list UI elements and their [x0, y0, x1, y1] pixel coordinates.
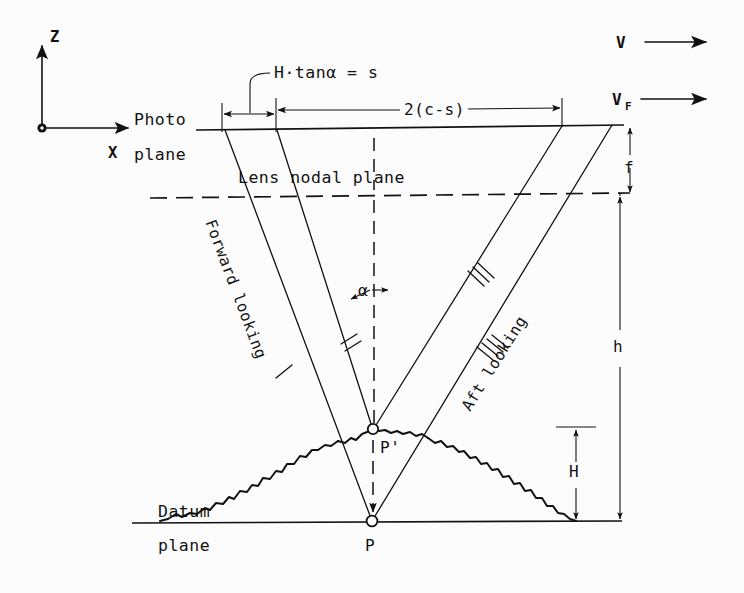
- point-P-group: P: [365, 516, 377, 555]
- optical-center-axis: [373, 138, 374, 512]
- alpha-angle-label: α: [358, 281, 368, 300]
- velocity-vector-V: V: [616, 33, 706, 52]
- coordinate-axes: [37, 46, 128, 133]
- terrain-right-slope: [428, 438, 576, 521]
- top-dimension-chain: 2(c-s) H·tanα = s: [222, 63, 562, 132]
- lens-nodal-plane-line: [150, 193, 630, 198]
- velocity-vector-VF: V F: [612, 90, 706, 113]
- h-dimension-label: h: [613, 337, 623, 356]
- diagram-canvas: P P' Photo plane Lens nodal plane Datum …: [0, 0, 744, 593]
- point-P-marker: [367, 516, 378, 527]
- point-P-prime-label: P': [380, 438, 400, 457]
- dim-label-s-expression: H·tanα = s: [274, 63, 378, 82]
- terrain-profile-group: [160, 429, 576, 521]
- lens-nodal-plane-label: Lens nodal plane: [238, 168, 405, 187]
- velocity-VF-label: V: [612, 90, 622, 109]
- z-axis-label: Z: [50, 28, 60, 46]
- photo-plane-label-line2: plane: [134, 145, 186, 164]
- datum-plane-label-line2: plane: [158, 536, 210, 555]
- velocity-VF-subscript: F: [625, 100, 632, 113]
- velocity-V-label: V: [616, 33, 626, 52]
- point-P-label: P: [365, 536, 375, 555]
- point-P-prime-marker: [368, 424, 378, 434]
- aft-inner-tick-3: [478, 263, 494, 278]
- lens-nodal-plane-group: [150, 193, 630, 198]
- aft-looking-ray-label: Aft looking: [458, 313, 530, 414]
- x-axis-label: X: [108, 144, 118, 162]
- alpha-angle-callout: α: [351, 281, 388, 300]
- H-dimension-label: H: [569, 462, 579, 481]
- forward-inner-tick-2: [345, 341, 361, 351]
- f-dimension-label: f: [624, 158, 634, 177]
- forward-looking-ray-label: Forward looking: [201, 217, 270, 361]
- photo-plane-label-line1: Photo: [134, 110, 186, 129]
- flying-height-dimension: h: [613, 193, 623, 519]
- datum-plane-labels: Datum plane: [158, 502, 210, 555]
- dim-leader-s: [250, 73, 270, 113]
- dim-label-baseline: 2(c-s): [404, 100, 465, 119]
- focal-length-dimension: f: [624, 128, 634, 192]
- forward-outer-tick-1: [276, 365, 292, 378]
- terrain-height-dimension: H: [556, 427, 596, 519]
- aft-inner-tick-2: [473, 267, 489, 282]
- aft-inner-tick-1: [468, 271, 484, 286]
- origin-dot-center-icon: [40, 126, 43, 129]
- datum-plane-label-line1: Datum: [158, 502, 210, 521]
- dim-arrow-baseline-right: [468, 108, 560, 109]
- photogrammetry-figure: P P' Photo plane Lens nodal plane Datum …: [0, 0, 744, 593]
- photo-plane-labels: Photo plane: [134, 110, 186, 164]
